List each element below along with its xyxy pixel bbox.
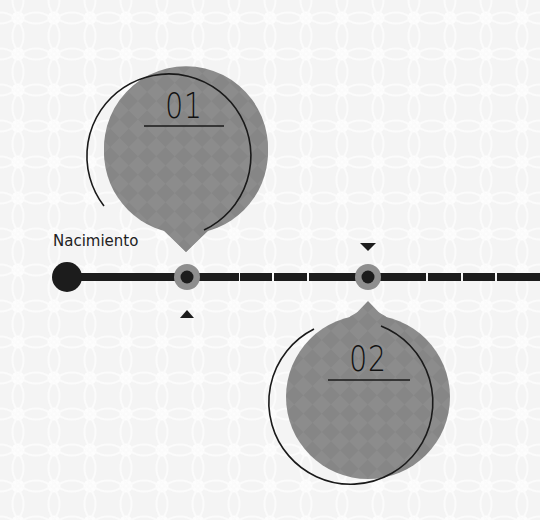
event-number-02: 02: [337, 339, 399, 379]
timeline-node-01[interactable]: [174, 264, 200, 290]
event-bubble-02: [269, 301, 450, 484]
timeline-line: [67, 273, 540, 281]
timeline-diagram: [0, 0, 540, 520]
start-dot: [52, 262, 82, 292]
triangle-down-marker: [360, 243, 376, 251]
timeline-node-02[interactable]: [355, 264, 381, 290]
event-number-01: 01: [153, 86, 215, 126]
start-label: Nacimiento: [53, 232, 138, 250]
triangle-up-marker: [180, 310, 194, 318]
